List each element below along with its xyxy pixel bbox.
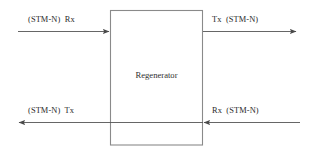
signal-label-bottom-right-input: Rx (STM-N)	[212, 107, 259, 115]
signal-label-top-right-output: Tx (STM-N)	[212, 16, 258, 24]
signal-label-bottom-left-output: (STM-N) Tx	[28, 107, 74, 115]
regenerator-block-diagram: Regenerator (STM-N) Rx Tx (STM-N) (STM-N…	[0, 0, 310, 152]
regenerator-node-label: Regenerator	[110, 71, 203, 80]
signal-label-top-left-input: (STM-N) Rx	[28, 16, 75, 24]
